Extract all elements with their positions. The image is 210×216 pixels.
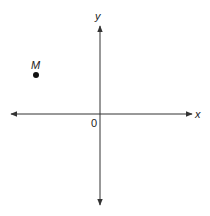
coordinate-plane: y x 0 M — [0, 0, 210, 216]
x-axis-label: x — [194, 108, 201, 120]
point-m-label: M — [31, 59, 41, 71]
y-axis-label: y — [94, 10, 102, 22]
point-m — [33, 72, 39, 78]
origin-label: 0 — [91, 117, 97, 129]
